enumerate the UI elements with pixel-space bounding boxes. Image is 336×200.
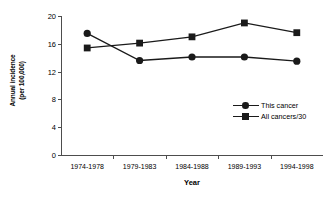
y-tick-label: 8 [52,95,56,104]
x-tick-label: 1989-1993 [228,163,261,170]
data-point-circle-icon[interactable] [241,53,248,60]
data-point-square-icon[interactable] [189,33,196,40]
y-axis-title: Annual incidence (per 100,000) [0,0,34,160]
y-tick-mark [58,155,61,156]
y-tick-label: 20 [48,12,56,21]
data-point-square-icon[interactable] [136,40,143,47]
x-tick-label: 1974-1978 [70,163,103,170]
series-layer [61,16,323,155]
data-point-circle-icon[interactable] [136,57,143,64]
x-axis-line [61,155,323,156]
y-tick-label: 12 [48,67,56,76]
x-tick-mark [218,155,219,159]
x-axis-title: Year [61,178,323,187]
legend-label: All cancers/30 [259,112,306,121]
x-tick-label: 1984-1988 [175,163,208,170]
plot-area: 201612840 1974-19781979-19831984-1988198… [61,16,323,155]
x-tick-mark [166,155,167,159]
data-point-circle-icon[interactable] [188,53,195,60]
y-tick-label: 4 [52,123,56,132]
data-point-square-icon[interactable] [293,29,300,36]
x-tick-label: 1979-1983 [123,163,156,170]
legend-item-this-cancer[interactable]: This cancer [233,100,323,111]
chart-container: Annual incidence (per 100,000) 201612840… [0,0,336,200]
data-point-square-icon[interactable] [84,45,91,52]
chart-legend: This cancer All cancers/30 [233,100,323,122]
legend-item-all-cancers[interactable]: All cancers/30 [233,111,323,122]
legend-marker-square-icon [233,111,259,122]
data-point-square-icon[interactable] [241,20,248,27]
x-tick-mark [113,155,114,159]
y-axis-title-line-2: (per 100,000) [17,54,26,106]
legend-label: This cancer [259,101,298,110]
y-tick-label: 0 [52,151,56,160]
legend-marker-circle-icon [233,100,259,111]
y-axis-title-line-1: Annual incidence [9,54,18,106]
data-point-circle-icon[interactable] [84,30,91,37]
data-point-circle-icon[interactable] [293,58,300,65]
y-tick-label: 16 [48,39,56,48]
x-tick-label: 1994-1998 [280,163,313,170]
x-tick-mark [271,155,272,159]
